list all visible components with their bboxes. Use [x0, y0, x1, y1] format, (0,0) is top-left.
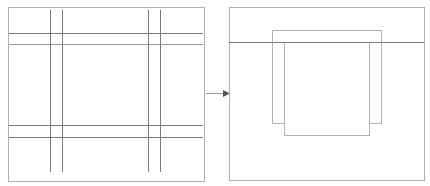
right-panel-rectangles [229, 8, 425, 181]
arrow-head-icon [223, 90, 230, 97]
left-panel-grid [9, 8, 205, 182]
transformation-diagram [0, 0, 430, 186]
arrow-icon [206, 90, 230, 97]
front-rectangle [285, 43, 370, 136]
